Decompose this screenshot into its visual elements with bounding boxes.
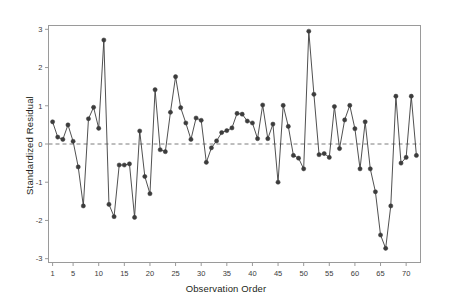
data-point bbox=[343, 118, 347, 122]
data-point bbox=[189, 137, 193, 141]
data-point bbox=[66, 123, 70, 127]
data-point bbox=[240, 112, 244, 116]
data-point bbox=[337, 146, 341, 150]
data-point bbox=[225, 129, 229, 133]
x-tick-label: 35 bbox=[223, 269, 231, 278]
data-point bbox=[214, 139, 218, 143]
data-point bbox=[168, 110, 172, 114]
data-point bbox=[138, 129, 142, 133]
data-point bbox=[327, 155, 331, 159]
data-point bbox=[348, 103, 352, 107]
data-point bbox=[414, 153, 418, 157]
x-tick-label: 40 bbox=[248, 269, 256, 278]
data-point bbox=[163, 150, 167, 154]
data-point bbox=[332, 104, 336, 108]
data-point bbox=[250, 121, 254, 125]
data-point bbox=[286, 124, 290, 128]
data-point bbox=[86, 117, 90, 121]
data-point bbox=[394, 94, 398, 98]
data-point bbox=[261, 103, 265, 107]
data-point bbox=[184, 121, 188, 125]
x-tick-label: 10 bbox=[95, 269, 103, 278]
data-point bbox=[307, 29, 311, 33]
data-point bbox=[266, 137, 270, 141]
data-point bbox=[199, 118, 203, 122]
x-tick-label: 30 bbox=[197, 269, 205, 278]
y-tick-label: 1 bbox=[38, 102, 42, 111]
y-axis-title: Standardized Residual bbox=[24, 66, 35, 226]
x-tick-label: 45 bbox=[274, 269, 282, 278]
data-point bbox=[117, 163, 121, 167]
data-point bbox=[353, 127, 357, 131]
data-point bbox=[302, 167, 306, 171]
data-point bbox=[97, 126, 101, 130]
x-tick-label: 25 bbox=[171, 269, 179, 278]
data-point bbox=[102, 38, 106, 42]
data-point bbox=[296, 156, 300, 160]
data-point bbox=[107, 202, 111, 206]
data-point bbox=[235, 111, 239, 115]
x-tick-label: 1 bbox=[51, 269, 55, 278]
y-tick-label: 3 bbox=[38, 25, 42, 34]
y-tick-label: -3 bbox=[36, 254, 43, 263]
y-tick-label: -2 bbox=[36, 216, 43, 225]
data-point bbox=[91, 105, 95, 109]
data-point bbox=[271, 122, 275, 126]
data-point bbox=[127, 162, 131, 166]
data-point bbox=[143, 174, 147, 178]
data-point bbox=[409, 94, 413, 98]
data-point bbox=[81, 204, 85, 208]
data-point bbox=[148, 192, 152, 196]
x-tick-label: 5 bbox=[71, 269, 75, 278]
x-tick-label: 70 bbox=[402, 269, 410, 278]
data-point bbox=[373, 190, 377, 194]
data-point bbox=[358, 167, 362, 171]
x-tick-label: 50 bbox=[300, 269, 308, 278]
data-point bbox=[179, 106, 183, 110]
data-point bbox=[132, 215, 136, 219]
data-point bbox=[209, 146, 213, 150]
y-tick-label: -1 bbox=[36, 178, 43, 187]
data-point bbox=[291, 153, 295, 157]
x-axis-ticks: 1510152025303540455055606570 bbox=[51, 263, 411, 278]
data-point bbox=[112, 215, 116, 219]
data-point bbox=[220, 130, 224, 134]
data-point bbox=[317, 153, 321, 157]
x-tick-label: 60 bbox=[351, 269, 359, 278]
data-point bbox=[368, 167, 372, 171]
data-point bbox=[122, 163, 126, 167]
data-point bbox=[194, 116, 198, 120]
data-point bbox=[384, 246, 388, 250]
y-tick-label: 0 bbox=[38, 140, 42, 149]
data-point bbox=[276, 180, 280, 184]
data-point bbox=[158, 148, 162, 152]
data-point bbox=[71, 139, 75, 143]
data-point bbox=[378, 233, 382, 237]
x-tick-label: 65 bbox=[376, 269, 384, 278]
data-point bbox=[204, 160, 208, 164]
data-point bbox=[51, 120, 55, 124]
x-tick-label: 20 bbox=[146, 269, 154, 278]
series-line bbox=[53, 31, 417, 248]
data-point bbox=[61, 137, 65, 141]
data-point bbox=[389, 204, 393, 208]
residual-chart: -3-2-10123 1510152025303540455055606570 … bbox=[0, 0, 452, 303]
data-series bbox=[51, 29, 419, 250]
y-axis-ticks: -3-2-10123 bbox=[36, 25, 49, 263]
data-point bbox=[312, 92, 316, 96]
data-point bbox=[230, 126, 234, 130]
x-tick-label: 55 bbox=[325, 269, 333, 278]
data-point bbox=[281, 103, 285, 107]
data-point bbox=[76, 165, 80, 169]
x-tick-label: 15 bbox=[120, 269, 128, 278]
data-point bbox=[404, 155, 408, 159]
data-point bbox=[245, 119, 249, 123]
data-point bbox=[153, 88, 157, 92]
y-tick-label: 2 bbox=[38, 63, 42, 72]
x-axis-title: Observation Order bbox=[0, 283, 452, 294]
data-point bbox=[399, 161, 403, 165]
data-point bbox=[322, 151, 326, 155]
data-point bbox=[255, 137, 259, 141]
data-point bbox=[363, 120, 367, 124]
data-point bbox=[173, 75, 177, 79]
